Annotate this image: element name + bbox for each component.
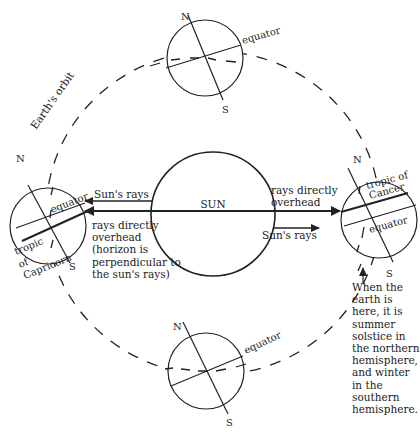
label-line: rays directly [92,219,181,231]
note-line: the northern [352,342,420,354]
note-line: earth is [352,293,420,305]
right-south-label: S [386,268,393,279]
label-line: overhead [271,196,338,208]
label-line: overhead [92,231,181,243]
bottom-north-label: N [173,321,182,332]
note-line: here, it is [352,305,420,317]
note-line: southern [352,391,420,403]
left-upper-ray-label: Sun's rays [94,188,149,200]
top-south-label: S [222,104,229,115]
top-north-label: N [181,11,190,22]
right-upper-ray-label: rays directly overhead [271,184,338,208]
note-line: hemisphere. [352,403,420,415]
right-lower-ray-label: Sun's rays [262,229,317,241]
note-line: When the [352,281,420,293]
top-equator-label: equator [241,24,282,46]
note-line: solstice in [352,330,420,342]
label-line: perpendicular to [92,256,181,268]
earth-top [150,15,243,100]
left-north-label: N [16,153,25,164]
left-lower-ray-label: rays directly overhead (horizon is perpe… [92,219,181,280]
right-north-label: N [353,154,362,165]
bottom-south-label: S [226,417,233,428]
label-line: the sun's rays) [92,268,181,280]
bottom-equator-label: equator [242,329,283,356]
orbit-label: Earth's orbit [28,69,77,132]
solstice-note: When the earth is here, it is summer sol… [352,281,420,415]
label-line: (horizon is [92,243,181,255]
note-line: summer [352,318,420,330]
sun-label: SUN [200,198,225,210]
label-line: rays directly [271,184,338,196]
note-line: and winter [352,366,420,378]
earth-bottom [165,322,246,414]
note-line: in the [352,379,420,391]
note-line: hemisphere, [352,354,420,366]
